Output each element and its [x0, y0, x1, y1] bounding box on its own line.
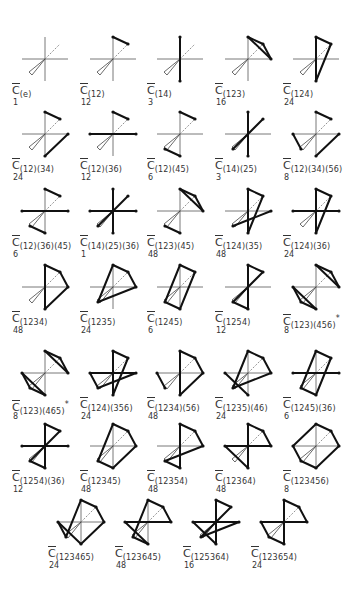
class-symbol: C [251, 547, 259, 560]
class-count: 12 [13, 485, 23, 494]
class-count: 8 [284, 326, 289, 335]
class-count: 1 [13, 98, 18, 107]
octahedral-axes-diagram [215, 349, 281, 399]
class-symbol: C [147, 159, 155, 172]
class-symbol: C [147, 471, 155, 484]
class-count: 16 [216, 98, 226, 107]
class-symbol: C [215, 236, 223, 249]
octahedral-axes-diagram [183, 498, 249, 548]
octahedral-axes-diagram [80, 349, 146, 399]
cycle-notation: (123)(456) [291, 321, 336, 330]
class-count: 48 [216, 485, 226, 494]
class-count: 1 [81, 250, 86, 259]
class-symbol: C [12, 159, 20, 172]
permutation-figure: C(12345)48 [80, 422, 146, 502]
permutation-figure: C(1235)24 [80, 263, 146, 343]
octahedral-axes-diagram [215, 422, 281, 472]
octahedral-axes-diagram [80, 110, 146, 160]
class-symbol: C [80, 398, 88, 411]
class-count: 6 [13, 250, 18, 259]
octahedral-axes-diagram [283, 110, 349, 160]
permutation-figure: C(14)(25)3 [215, 110, 281, 190]
class-count: 6 [148, 173, 153, 182]
octahedral-axes-diagram [115, 498, 181, 548]
permutation-figure: C(14)3 [147, 35, 213, 115]
cycle-notation: (123456) [291, 477, 329, 486]
class-count: 24 [81, 412, 91, 421]
cycle-notation: (12345) [88, 477, 121, 486]
class-symbol: C [147, 236, 155, 249]
octahedral-axes-diagram [283, 35, 349, 85]
permutation-figure: C(1245)(36)6 [283, 349, 349, 429]
class-symbol: C [183, 547, 191, 560]
permutation-figure: C(1234)48 [12, 263, 78, 343]
class-count: 48 [148, 250, 158, 259]
cycle-notation: (1235)(46) [223, 404, 268, 413]
class-count: 12 [216, 326, 226, 335]
octahedral-axes-diagram [283, 422, 349, 472]
permutation-figure: C(14)(25)(36)1 [80, 187, 146, 267]
class-symbol: C [147, 312, 155, 325]
permutation-figure: C(12)(45)6 [147, 110, 213, 190]
class-symbol: C [215, 312, 223, 325]
figure-label: C(14)(25)(36) [80, 238, 139, 252]
figure-label: C(12)(34)(56) [283, 161, 342, 175]
cycle-notation: (12364) [223, 477, 256, 486]
cycle-notation: (123654) [259, 553, 297, 562]
permutation-figure: C(12)(34)24 [12, 110, 78, 190]
class-symbol: C [12, 471, 20, 484]
octahedral-axes-diagram [147, 349, 213, 399]
class-count: 48 [148, 485, 158, 494]
cycle-notation: (123)(465) [20, 407, 65, 416]
class-count: 48 [116, 561, 126, 570]
cycle-notation: (1254)(36) [20, 477, 65, 486]
class-count: 24 [49, 561, 59, 570]
permutation-figure: C(12)(36)12 [80, 110, 146, 190]
class-count: 48 [148, 412, 158, 421]
class-count: 8 [284, 173, 289, 182]
octahedral-axes-diagram [251, 498, 317, 548]
octahedral-axes-diagram [215, 187, 281, 237]
class-symbol: C [48, 547, 56, 560]
permutation-figure: C(124)(36)24 [283, 187, 349, 267]
class-symbol: C [115, 547, 123, 560]
cycle-notation: (124)(36) [291, 242, 331, 251]
class-count: 48 [13, 326, 23, 335]
class-count: 3 [148, 98, 153, 107]
class-count: 24 [284, 98, 294, 107]
octahedral-axes-diagram [80, 187, 146, 237]
class-symbol: C [283, 236, 291, 249]
class-count: 24 [13, 173, 23, 182]
octahedral-axes-diagram [283, 263, 349, 313]
class-symbol: C [12, 312, 20, 325]
octahedral-axes-diagram [12, 349, 78, 399]
cycle-notation: (1234)(56) [155, 404, 200, 413]
octahedral-axes-diagram [215, 35, 281, 85]
permutation-figure: C(123654)24 [251, 498, 317, 578]
class-count: 48 [81, 485, 91, 494]
class-symbol: C [215, 398, 223, 411]
cycle-notation: (124)(356) [88, 404, 133, 413]
octahedral-axes-diagram [12, 35, 78, 85]
class-count: 24 [81, 326, 91, 335]
class-symbol: C [80, 312, 88, 325]
permutation-figure: C(1254)(36)12 [12, 422, 78, 502]
class-symbol: C [80, 84, 88, 97]
octahedral-axes-diagram [12, 187, 78, 237]
cycle-notation: (123465) [56, 553, 94, 562]
class-count: 24 [252, 561, 262, 570]
octahedral-axes-diagram [12, 422, 78, 472]
cycle-notation: (123645) [123, 553, 161, 562]
figure-label: C(14)(25) [215, 161, 257, 175]
class-count: 48 [216, 250, 226, 259]
octahedral-axes-diagram [80, 35, 146, 85]
octahedral-axes-diagram [283, 349, 349, 399]
cycle-notation: (125364) [191, 553, 229, 562]
cycle-notation: (14)(25)(36) [88, 242, 140, 251]
permutation-figure: C(123)(465)*8 [12, 349, 78, 429]
octahedral-axes-diagram [147, 263, 213, 313]
class-symbol: C [283, 84, 291, 97]
octahedral-axes-diagram [215, 263, 281, 313]
octahedral-axes-diagram [12, 263, 78, 313]
class-count: 24 [216, 412, 226, 421]
